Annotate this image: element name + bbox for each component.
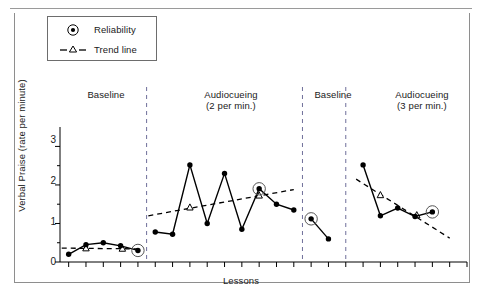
- data-point-marker: [153, 229, 158, 234]
- data-point-marker: [395, 205, 400, 210]
- data-series-group: [66, 162, 439, 257]
- trend-marker-triangle: [187, 204, 193, 210]
- data-point-marker: [83, 242, 88, 247]
- data-point-marker: [274, 202, 279, 207]
- chart-plot-area: [0, 0, 482, 292]
- data-point-marker: [205, 221, 210, 226]
- data-point-marker: [222, 171, 227, 176]
- data-point-marker: [170, 232, 175, 237]
- data-point-marker: [412, 214, 417, 219]
- trend-marker-triangle: [377, 192, 383, 198]
- data-point-marker: [101, 240, 106, 245]
- trend-lines-group: [62, 179, 450, 251]
- data-point-marker: [187, 162, 192, 167]
- data-point-marker: [239, 227, 244, 232]
- data-point-marker: [360, 162, 365, 167]
- data-point-marker: [326, 236, 331, 241]
- data-point-marker: [135, 248, 140, 253]
- data-point-marker: [378, 213, 383, 218]
- trend-line: [148, 190, 293, 216]
- data-point-marker: [256, 186, 261, 191]
- data-point-marker: [308, 216, 313, 221]
- data-point-marker: [118, 243, 123, 248]
- data-point-marker: [430, 209, 435, 214]
- data-point-marker: [66, 252, 71, 257]
- data-series-line: [311, 219, 328, 239]
- data-point-marker: [291, 207, 296, 212]
- phase-divider-group: [147, 87, 346, 262]
- trend-line: [356, 179, 450, 238]
- figure-root: Reliability Trend line Verbal Praise (ra…: [0, 0, 482, 292]
